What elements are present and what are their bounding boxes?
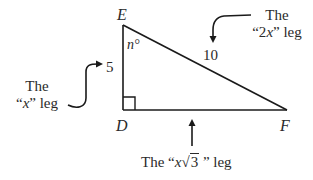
annotation-2x-leg: The “2x” leg: [248, 7, 306, 41]
two-x-leg-arrow: [213, 15, 251, 38]
annotation-x-leg-line2: “x” leg: [12, 95, 62, 112]
right-angle-marker: [123, 97, 135, 110]
x-root3-leg-arrowhead-icon: [189, 119, 196, 126]
side-length-EF: 10: [203, 47, 218, 64]
annotation-2x-leg-line1: The: [248, 7, 306, 24]
annotation-x-leg: The “x” leg: [12, 78, 62, 112]
annotation-x-root3-leg: The “x√3 ” leg: [141, 154, 232, 171]
vertex-label-D: D: [116, 117, 128, 134]
x-leg-arrowhead-icon: [96, 61, 103, 68]
annotation-2x-leg-line2: “2x” leg: [248, 24, 306, 41]
angle-label-n: n°: [127, 36, 140, 53]
side-length-ED: 5: [106, 59, 114, 76]
annotation-x-leg-line1: The: [12, 78, 62, 95]
two-x-leg-arrowhead-icon: [210, 36, 217, 43]
vertex-label-F: F: [280, 117, 290, 134]
x-leg-arrow: [68, 64, 98, 107]
square-root-symbol: √3: [181, 154, 199, 171]
vertex-label-E: E: [117, 6, 127, 23]
